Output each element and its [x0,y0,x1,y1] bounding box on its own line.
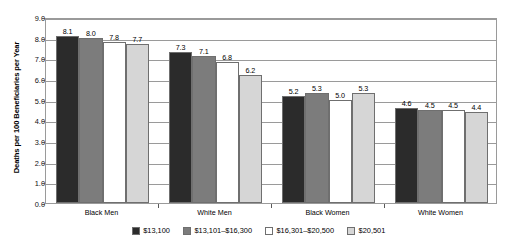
bar-value-label: 7.1 [192,47,215,56]
legend-label: $13,101–$16,300 [194,226,252,235]
bar-value-label: 5.3 [352,84,375,93]
y-tick-label: 4.0 [5,117,45,126]
y-tick-mark [42,204,45,205]
legend-swatch-icon [347,227,355,235]
legend-label: $20,501 [359,226,386,235]
legend-swatch-icon [265,227,273,235]
bar-value-label: 7.3 [169,43,192,52]
category-separator-tick [158,204,159,208]
bar-value-label: 8.1 [56,27,79,36]
bar-value-label: 7.7 [126,35,149,44]
bar [305,93,328,203]
bar [442,110,465,203]
y-axis-ticks: 0.01.02.03.04.05.06.07.08.09.0 [0,18,45,204]
legend-label: $16,301–$20,500 [277,226,335,235]
legend-item[interactable]: $16,301–$20,500 [265,226,334,235]
bar [239,75,262,203]
bar [418,110,441,203]
y-tick-label: 5.0 [5,96,45,105]
chart-legend: $13,100$13,101–$16,300$16,301–$20,500$20… [0,226,517,235]
plot-area: 8.18.07.87.77.37.16.86.25.25.35.05.34.64… [45,18,497,204]
bar-value-label: 6.8 [216,53,239,62]
y-tick-label: 1.0 [5,179,45,188]
bar [103,42,126,203]
category-label: Black Women [271,208,384,217]
gridline [46,19,496,20]
y-tick-label: 3.0 [5,138,45,147]
bar [169,52,192,203]
bar [282,96,305,203]
category-separator-tick [384,204,385,208]
legend-item[interactable]: $20,501 [347,226,385,235]
category-label: Black Men [45,208,158,217]
y-tick-label: 2.0 [5,158,45,167]
legend-swatch-icon [132,227,140,235]
bar-value-label: 6.2 [239,66,262,75]
x-axis-category-labels: Black MenWhite MenBlack WomenWhite Women [45,208,497,220]
bar-value-label: 4.5 [418,101,441,110]
bar [192,56,215,203]
bar [79,38,102,203]
bar-value-label: 8.0 [79,29,102,38]
bar-value-label: 5.0 [329,91,352,100]
legend-swatch-icon [183,227,191,235]
bar-value-label: 7.8 [103,33,126,42]
bar [329,100,352,203]
y-tick-label: 0.0 [5,200,45,209]
category-label: White Women [384,208,497,217]
bar-value-label: 4.6 [395,99,418,108]
y-tick-label: 8.0 [5,34,45,43]
legend-label: $13,100 [143,226,170,235]
bar-chart-figure: Deaths per 100 Beneficiaries per Year 0.… [0,0,517,250]
category-label: White Men [158,208,271,217]
bar [352,93,375,203]
bar [56,36,79,203]
bar [395,108,418,203]
legend-item[interactable]: $13,100 [132,226,170,235]
bar-value-label: 4.5 [442,101,465,110]
bar-value-label: 5.2 [282,87,305,96]
bar [465,112,488,203]
bar [126,44,149,203]
legend-item[interactable]: $13,101–$16,300 [183,226,252,235]
bar [216,62,239,203]
category-separator-tick [271,204,272,208]
bar-value-label: 5.3 [305,84,328,93]
y-tick-label: 9.0 [5,14,45,23]
bar-value-label: 4.4 [465,103,488,112]
y-tick-label: 6.0 [5,76,45,85]
y-tick-label: 7.0 [5,55,45,64]
